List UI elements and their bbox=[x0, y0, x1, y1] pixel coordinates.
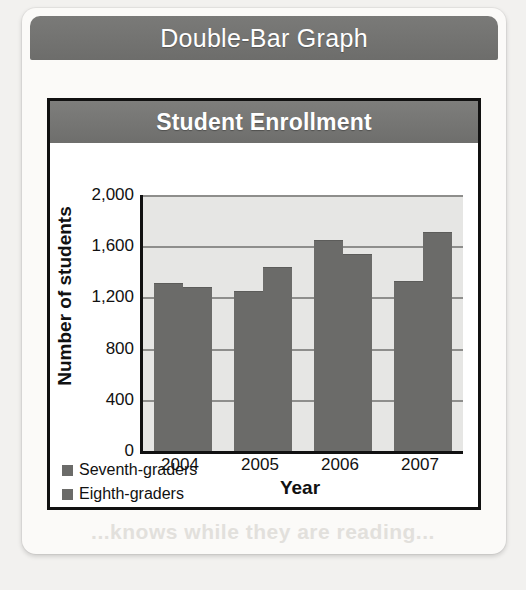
y-axis-label-text: Number of students bbox=[54, 206, 76, 385]
legend-item: Eighth-graders bbox=[62, 485, 197, 503]
y-axis-label: Number of students bbox=[52, 181, 78, 411]
x-tick-label: 2006 bbox=[321, 455, 359, 475]
y-tick-label: 1,600 bbox=[91, 236, 134, 256]
bar-2004-seventh bbox=[154, 283, 183, 451]
y-tick-label: 1,200 bbox=[91, 287, 134, 307]
bar-2007-eighth bbox=[423, 232, 452, 451]
legend-swatch-icon bbox=[62, 465, 73, 476]
y-axis-ticks: 04008001,2001,6002,000 bbox=[76, 195, 138, 451]
legend-label: Eighth-graders bbox=[79, 485, 184, 503]
x-tick-label: 2005 bbox=[241, 455, 279, 475]
bar-2006-seventh bbox=[314, 240, 343, 451]
chart-legend: Seventh-gradersEighth-graders bbox=[62, 461, 197, 509]
y-tick-label: 2,000 bbox=[91, 185, 134, 205]
plot-area: Number of students 04008001,2001,6002,00… bbox=[50, 143, 478, 493]
bar-2006-eighth bbox=[343, 254, 372, 451]
bar-2007-seventh bbox=[394, 281, 423, 451]
y-tick-label: 400 bbox=[106, 390, 134, 410]
bar-2005-eighth bbox=[263, 267, 292, 451]
y-tick-label: 0 bbox=[125, 441, 134, 461]
bar-2004-eighth bbox=[183, 287, 212, 451]
card-title: Double-Bar Graph bbox=[30, 16, 498, 60]
chart-container: Student Enrollment Number of students 04… bbox=[47, 98, 481, 510]
x-tick-label: 2007 bbox=[401, 455, 439, 475]
y-tick-label: 800 bbox=[106, 339, 134, 359]
chart-title: Student Enrollment bbox=[50, 101, 478, 143]
plot-canvas bbox=[140, 195, 463, 454]
legend-item: Seventh-graders bbox=[62, 461, 197, 479]
ghost-text-lower: ...knows while they are reading... bbox=[0, 520, 526, 544]
legend-label: Seventh-graders bbox=[79, 461, 197, 479]
legend-swatch-icon bbox=[62, 489, 73, 500]
bar-series-group bbox=[143, 195, 463, 451]
bar-2005-seventh bbox=[234, 291, 263, 451]
